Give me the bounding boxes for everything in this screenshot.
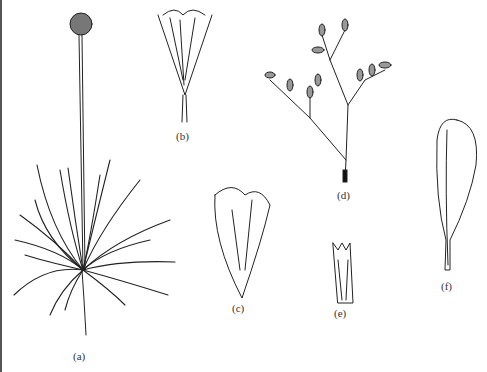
- label-f: (f): [441, 280, 452, 292]
- label-e: (e): [334, 307, 346, 319]
- inflorescence-d-drawing: [265, 19, 391, 182]
- label-c: (c): [232, 302, 244, 314]
- label-d: (d): [337, 189, 350, 201]
- botanical-illustration: [0, 0, 487, 372]
- label-a: (a): [73, 350, 85, 362]
- calyx-e-drawing: [333, 243, 353, 303]
- flower-b-drawing: [158, 10, 212, 122]
- leaf-f-drawing: [437, 119, 477, 270]
- petal-c-drawing: [215, 188, 270, 299]
- label-b: (b): [176, 130, 189, 142]
- plant-a-drawing: [14, 13, 175, 335]
